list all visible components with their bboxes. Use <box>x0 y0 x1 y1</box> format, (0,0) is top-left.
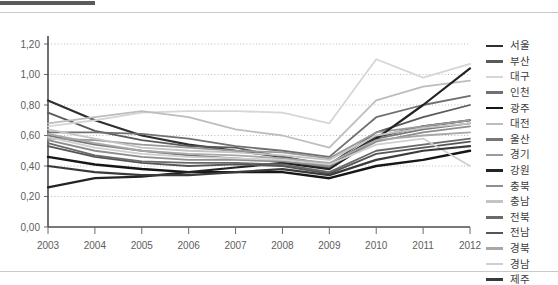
legend-item[interactable]: 울산 <box>486 132 556 148</box>
legend-swatch-icon <box>486 200 503 203</box>
legend-swatch-icon <box>486 107 503 110</box>
legend-label: 전남 <box>510 227 530 238</box>
legend-swatch-icon <box>486 216 503 219</box>
legend-item[interactable]: 경남 <box>486 256 556 272</box>
legend-label: 경북 <box>510 243 530 254</box>
y-axis-label: 1,20 <box>21 39 41 50</box>
legend-item[interactable]: 경기 <box>486 147 556 163</box>
legend-swatch-icon <box>486 232 503 235</box>
legend-label: 경남 <box>510 259 530 270</box>
y-axis-label: 0,20 <box>21 191 41 202</box>
top-divider <box>0 12 558 13</box>
legend-swatch-icon <box>486 169 503 172</box>
legend-swatch-icon <box>486 76 503 79</box>
legend-swatch-icon <box>486 278 503 281</box>
legend-label: 광주 <box>510 103 530 114</box>
legend-swatch-icon <box>486 263 503 266</box>
legend-item[interactable]: 충남 <box>486 194 556 210</box>
legend-item[interactable]: 인천 <box>486 85 556 101</box>
legend-label: 제주 <box>510 274 530 285</box>
legend-label: 경기 <box>510 149 530 160</box>
legend-item[interactable]: 강원 <box>486 163 556 179</box>
legend-label: 강원 <box>510 165 530 176</box>
legend-label: 충남 <box>510 196 530 207</box>
y-axis-label: 0,40 <box>21 161 41 172</box>
x-axis-label: 2005 <box>131 240 154 251</box>
legend-label: 전북 <box>510 212 530 223</box>
legend-item[interactable]: 경북 <box>486 241 556 257</box>
legend-item[interactable]: 부산 <box>486 54 556 70</box>
legend-label: 인천 <box>510 87 530 98</box>
x-axis-label: 2009 <box>318 240 341 251</box>
legend-label: 충북 <box>510 181 530 192</box>
legend-item[interactable]: 제주 <box>486 272 556 285</box>
legend-item[interactable]: 대구 <box>486 69 556 85</box>
legend-swatch-icon <box>486 60 503 63</box>
legend-item[interactable]: 광주 <box>486 100 556 116</box>
y-axis-label: 1,00 <box>21 69 41 80</box>
legend-label: 서울 <box>510 40 530 51</box>
legend-item[interactable]: 전남 <box>486 225 556 241</box>
legend-label: 울산 <box>510 134 530 145</box>
legend-swatch-icon <box>486 138 503 141</box>
legend-swatch-icon <box>486 247 503 250</box>
legend-swatch-icon <box>486 91 503 94</box>
x-axis-label: 2008 <box>271 240 294 251</box>
legend-swatch-icon <box>486 123 503 126</box>
x-axis-label: 2004 <box>84 240 107 251</box>
y-axis-label: 0,60 <box>21 130 41 141</box>
x-axis-label: 2003 <box>37 240 60 251</box>
x-axis-label: 2011 <box>412 240 434 251</box>
legend-label: 대전 <box>510 118 530 129</box>
legend-item[interactable]: 대전 <box>486 116 556 132</box>
legend-item[interactable]: 서울 <box>486 38 556 54</box>
x-axis-label: 2007 <box>224 240 247 251</box>
x-axis-label: 2012 <box>459 240 482 251</box>
y-axis-label: 0,80 <box>21 100 41 111</box>
legend-label: 대구 <box>510 71 530 82</box>
x-axis-label: 2010 <box>365 240 388 251</box>
legend-swatch-icon <box>486 45 503 48</box>
line-chart-figure: 0,000,200,400,600,801,001,20200320042005… <box>0 18 558 268</box>
y-axis-label: 0,00 <box>21 222 41 233</box>
legend-label: 부산 <box>510 56 530 67</box>
legend-swatch-icon <box>486 154 503 157</box>
legend-item[interactable]: 충북 <box>486 178 556 194</box>
legend-swatch-icon <box>486 185 503 188</box>
chart-legend: 서울부산대구인천광주대전울산경기강원충북충남전북전남경북경남제주 <box>486 38 556 285</box>
legend-item[interactable]: 전북 <box>486 210 556 226</box>
x-axis-label: 2006 <box>178 240 201 251</box>
top-accent-bar <box>0 1 95 5</box>
chart-canvas: 0,000,200,400,600,801,001,20200320042005… <box>0 18 558 268</box>
bottom-divider <box>0 271 558 272</box>
